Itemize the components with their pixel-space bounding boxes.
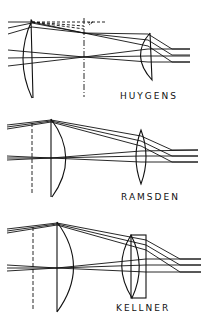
kellner-axial-rays <box>7 259 201 272</box>
ramsden-label: RAMSDEN <box>121 192 180 202</box>
eyepiece-diagram <box>0 0 208 323</box>
kellner-panel <box>7 222 201 312</box>
ramsden-panel <box>7 119 198 197</box>
huygens-panel <box>8 18 190 98</box>
kellner-label: KELLNER <box>116 303 170 313</box>
ramsden-eye-lens <box>136 130 146 184</box>
huygens-label: HUYGENS <box>120 91 178 101</box>
huygens-axial-rays <box>8 49 190 66</box>
huygens-field-lens <box>23 20 33 98</box>
